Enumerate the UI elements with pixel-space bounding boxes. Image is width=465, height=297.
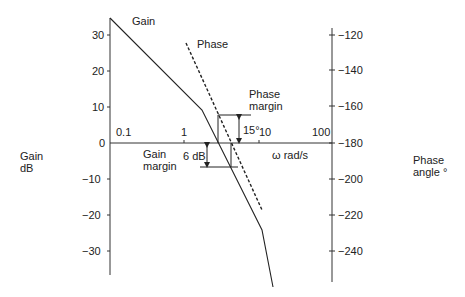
phase-margin-label: Phase margin bbox=[249, 88, 283, 112]
gain-margin-value: 6 dB bbox=[183, 150, 206, 162]
gain-margin-label: Gain margin bbox=[143, 148, 177, 172]
right-tick-200: −200 bbox=[338, 173, 363, 185]
bode-plot bbox=[0, 0, 465, 297]
phase-curve-label: Phase bbox=[197, 38, 228, 50]
right-tick-180: −180 bbox=[338, 137, 363, 149]
gain-margin-label-line2: margin bbox=[143, 160, 177, 172]
left-tick-m20: −20 bbox=[82, 209, 101, 221]
phase-margin-label-line1: Phase bbox=[249, 88, 283, 100]
right-tick-140: −140 bbox=[338, 64, 363, 76]
phase-margin-value: 15° bbox=[243, 124, 260, 136]
x-tick-0: 0.1 bbox=[116, 126, 131, 138]
right-axis-title-line2: angle ° bbox=[413, 166, 447, 178]
right-tick-160: −160 bbox=[338, 100, 363, 112]
left-tick-20: 20 bbox=[92, 65, 104, 77]
left-tick-m30: −30 bbox=[82, 245, 101, 257]
left-axis-title-line1: Gain bbox=[20, 150, 43, 162]
left-tick-10: 10 bbox=[92, 101, 104, 113]
x-tick-2: 10 bbox=[259, 126, 271, 138]
left-tick-30: 30 bbox=[92, 29, 104, 41]
phase-margin-label-line2: margin bbox=[249, 100, 283, 112]
right-tick-240: −240 bbox=[338, 245, 363, 257]
right-axis-title-line1: Phase bbox=[413, 154, 447, 166]
gain-margin-marker bbox=[200, 143, 238, 167]
left-tick-0: 0 bbox=[99, 137, 105, 149]
gain-margin-label-line1: Gain bbox=[143, 148, 177, 160]
left-axis-title-line2: dB bbox=[20, 162, 43, 174]
x-tick-3: 100 bbox=[312, 126, 330, 138]
right-tick-220: −220 bbox=[338, 209, 363, 221]
right-tick-120: −120 bbox=[338, 29, 363, 41]
right-axis-title: Phase angle ° bbox=[413, 154, 447, 178]
left-axis-title: Gain dB bbox=[20, 150, 43, 174]
x-tick-1: 1 bbox=[181, 126, 187, 138]
gain-curve-label: Gain bbox=[132, 15, 155, 27]
x-axis-label: ω rad/s bbox=[272, 149, 308, 161]
left-tick-m10: −10 bbox=[82, 173, 101, 185]
